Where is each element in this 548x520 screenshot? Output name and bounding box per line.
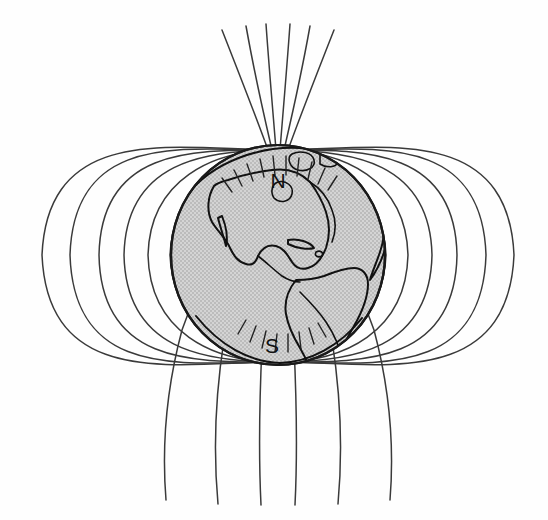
field-diagram-canvas: N S: [0, 0, 548, 520]
magnetic-field-figure: N S: [0, 0, 548, 520]
north-pole-label: N: [270, 169, 285, 192]
south-pole-label: S: [265, 334, 279, 357]
